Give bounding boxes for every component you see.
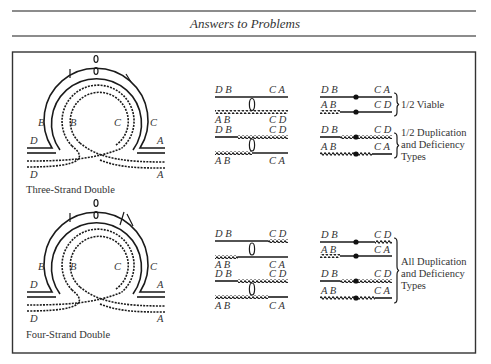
product-label: D B: [320, 124, 338, 135]
three-strand-loop-diagram: B B C C D A D A Three-Strand Double: [26, 56, 165, 196]
product-label: C A: [374, 285, 390, 296]
label-outer-left: B: [38, 117, 45, 128]
chromatid-label: C D: [269, 268, 287, 279]
label-outer-right: C: [150, 261, 158, 272]
caption-three-strand: Three-Strand Double: [26, 184, 115, 195]
chromatid-label: C D: [269, 228, 287, 239]
four-strand-products: D B C D A B C A D B C D A B C A All Dupl…: [320, 229, 467, 303]
label-inner-right: C: [114, 117, 122, 128]
chromatid-label: C D: [269, 124, 287, 135]
label-top-right: A: [156, 135, 164, 146]
label-bottom-left: D: [29, 169, 38, 180]
chromatid-label: D B: [214, 84, 232, 95]
label-inner-left: B: [70, 261, 77, 272]
chromatid-label: D B: [214, 228, 232, 239]
product-label: C D: [374, 99, 392, 110]
product-label: D B: [320, 268, 338, 279]
product-label: D B: [320, 84, 338, 95]
label-bottom-left: D: [29, 313, 38, 324]
label-inner-right: C: [114, 261, 122, 272]
note-viable: 1/2 Viable: [401, 99, 445, 110]
product-label: C D: [374, 124, 392, 135]
chromatid-label: C A: [269, 84, 285, 95]
product-label: A B: [320, 285, 337, 296]
four-strand-loop-diagram: B B C C D A D A Four-Strand Double: [26, 200, 165, 341]
label-bottom-right: A: [156, 169, 164, 180]
product-label: C A: [374, 244, 390, 255]
four-strand-chromatid-pair-2: D B C D A B C A: [214, 268, 288, 311]
label-outer-right: C: [150, 117, 158, 128]
four-strand-chromatid-pair-1: D B C D A B C A: [214, 228, 288, 270]
three-strand-chromatid-pair-1: D B C A A B C D: [214, 84, 288, 125]
label-inner-left: B: [70, 117, 77, 128]
caption-four-strand: Four-Strand Double: [26, 329, 110, 340]
chromatid-label: A B: [214, 155, 231, 166]
label-top-left: D: [29, 279, 38, 290]
three-strand-products-dup-def: D B C D A B C A 1/2 Duplication and Defi…: [320, 124, 467, 162]
three-strand-chromatid-pair-2: D B C D A B C A: [214, 124, 288, 166]
label-top-left: D: [29, 135, 38, 146]
chromatid-label: C A: [269, 300, 285, 311]
three-strand-products-viable: D B C A A B C D 1/2 Viable: [320, 84, 445, 116]
chromatid-label: C A: [269, 155, 285, 166]
chromatid-label: D B: [214, 268, 232, 279]
product-label: A B: [320, 141, 337, 152]
product-label: D B: [320, 229, 338, 240]
label-outer-left: B: [38, 261, 45, 272]
note-all-dup-def-line1: All Duplication: [401, 256, 467, 267]
note-all-dup-def-line2: and Deficiency: [401, 268, 466, 279]
note-dup-def-line1: 1/2 Duplication: [401, 127, 467, 138]
figure-canvas: Answers to Problems B B C C D A D A Thre…: [0, 0, 491, 364]
product-label: C A: [374, 141, 390, 152]
note-dup-def-line2: and Deficiency: [401, 139, 466, 150]
note-all-dup-def-line3: Types: [401, 280, 426, 291]
label-bottom-right: A: [156, 313, 164, 324]
product-label: C D: [374, 229, 392, 240]
product-label: A B: [320, 244, 337, 255]
product-label: A B: [320, 99, 337, 110]
product-label: C D: [374, 268, 392, 279]
page-title: Answers to Problems: [189, 16, 300, 31]
product-label: C A: [374, 84, 390, 95]
chromatid-label: A B: [214, 300, 231, 311]
note-dup-def-line3: Types: [401, 151, 426, 162]
chromatid-label: D B: [214, 124, 232, 135]
label-top-right: A: [156, 279, 164, 290]
